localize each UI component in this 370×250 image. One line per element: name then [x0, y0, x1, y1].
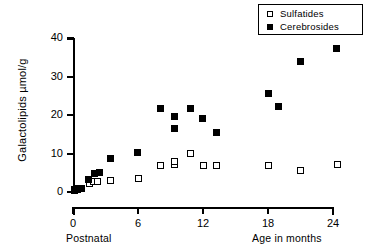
x-tick-label-12: 12 [188, 218, 218, 229]
chart-legend: Sulfatides Cerebrosides [258, 4, 363, 35]
data-point-sulfatides [94, 178, 101, 185]
data-point-cerebrosides [157, 105, 164, 112]
y-tick-label-40: 40 [35, 32, 63, 43]
y-tick-10 [67, 153, 74, 155]
data-point-cerebrosides [107, 155, 114, 162]
data-point-cerebrosides [171, 125, 178, 132]
data-point-sulfatides [107, 177, 114, 184]
data-point-cerebrosides [199, 115, 206, 122]
data-point-sulfatides [187, 150, 194, 157]
open-square-marker-icon [267, 11, 273, 17]
data-point-cerebrosides [85, 176, 92, 183]
data-point-sulfatides [171, 161, 178, 168]
x-tick-label-6: 6 [123, 218, 153, 229]
data-point-cerebrosides [75, 185, 82, 192]
legend-label-cerebrosides: Cerebrosides [280, 22, 339, 32]
y-tick-30 [67, 76, 74, 78]
x-tick-12 [202, 207, 204, 214]
data-point-sulfatides [157, 162, 164, 169]
data-point-sulfatides [74, 186, 81, 193]
x-tick-0 [72, 207, 74, 214]
data-point-sulfatides [90, 178, 97, 185]
x-tick-label-18: 18 [253, 218, 283, 229]
y-tick-20 [67, 114, 74, 116]
data-point-sulfatides [86, 180, 93, 187]
data-point-sulfatides [265, 162, 272, 169]
data-point-sulfatides [171, 158, 178, 165]
data-point-cerebrosides [187, 105, 194, 112]
data-point-cerebrosides [171, 113, 178, 120]
data-point-cerebrosides [134, 149, 141, 156]
y-tick-0 [67, 191, 74, 193]
y-tick-40 [67, 37, 74, 39]
legend-label-sulfatides: Sulfatides [280, 9, 324, 19]
x-axis-caption-age: Age in months [252, 232, 322, 244]
data-point-cerebrosides [213, 129, 220, 136]
data-point-cerebrosides [275, 103, 282, 110]
galactolipids-scatter-chart: Sulfatides Cerebrosides 010203040 Galact… [0, 0, 370, 250]
data-point-sulfatides [334, 161, 341, 168]
y-tick-label-0: 0 [35, 186, 63, 197]
data-point-cerebrosides [78, 185, 85, 192]
data-point-sulfatides [200, 162, 207, 169]
y-tick-label-30: 30 [35, 71, 63, 82]
y-tick-label-20: 20 [35, 109, 63, 120]
data-point-cerebrosides [91, 170, 98, 177]
x-axis-caption-postnatal: Postnatal [66, 232, 112, 244]
x-tick-24 [332, 207, 334, 214]
data-point-sulfatides [135, 175, 142, 182]
data-point-sulfatides [297, 167, 304, 174]
x-tick-18 [267, 207, 269, 214]
legend-item-cerebrosides: Cerebrosides [267, 21, 339, 33]
data-point-cerebrosides [297, 58, 304, 65]
data-point-sulfatides [213, 162, 220, 169]
data-point-cerebrosides [333, 45, 340, 52]
filled-square-marker-icon [267, 24, 273, 30]
data-point-cerebrosides [96, 169, 103, 176]
x-tick-6 [137, 207, 139, 214]
legend-item-sulfatides: Sulfatides [267, 8, 324, 20]
data-point-cerebrosides [265, 90, 272, 97]
x-tick-label-24: 24 [318, 218, 348, 229]
x-tick-label-0: 0 [58, 218, 88, 229]
y-axis-title: Galactolipids µmol/g [16, 35, 28, 185]
y-tick-label-10: 10 [35, 148, 63, 159]
